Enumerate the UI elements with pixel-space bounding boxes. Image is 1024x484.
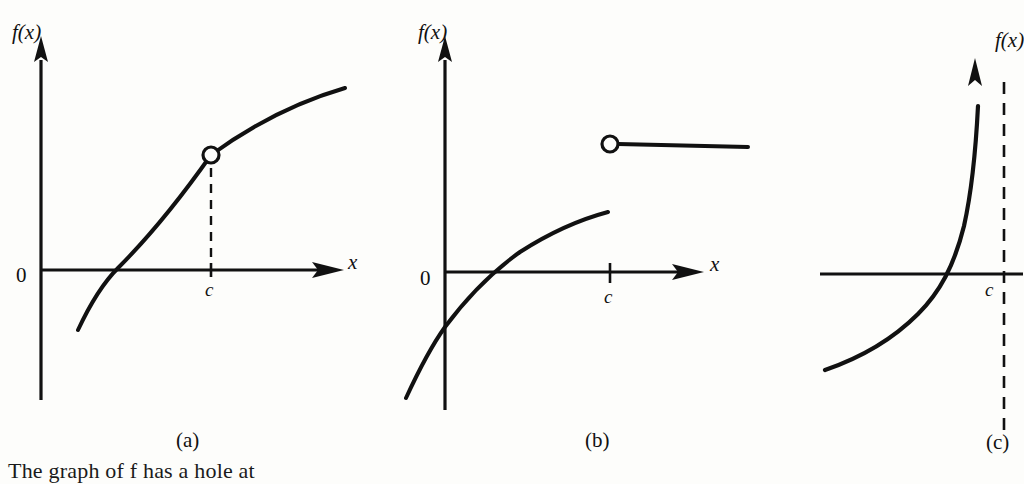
- open-circle-point: [203, 147, 219, 163]
- panel-a-graph: [0, 0, 370, 475]
- origin-label: 0: [420, 268, 431, 289]
- panel-caption-a: (a): [176, 430, 199, 451]
- x-axis-label: x: [348, 252, 357, 273]
- figure-note-text: The graph of f has a hole at: [8, 458, 255, 484]
- tick-label-c: c: [985, 280, 993, 299]
- panel-c: f(x) c (c): [750, 0, 1023, 475]
- x-axis-label: x: [710, 254, 719, 275]
- tick-label-c: c: [604, 287, 612, 306]
- panel-b-graph: [370, 0, 750, 475]
- y-axis-arrowhead: [968, 58, 982, 86]
- open-circle-point: [602, 136, 618, 152]
- origin-label: 0: [16, 265, 27, 286]
- y-axis-label: f(x): [995, 30, 1024, 51]
- panel-a: f(x) x 0 c (a): [0, 0, 370, 475]
- function-curve: [825, 106, 978, 370]
- panel-c-graph: [750, 0, 1023, 475]
- tick-label-c: c: [205, 280, 213, 299]
- lower-branch-curve: [406, 212, 608, 398]
- upper-branch-segment: [618, 144, 748, 147]
- panel-b: f(x) x 0 c (b): [370, 0, 750, 475]
- panel-caption-b: (b): [585, 430, 610, 451]
- y-axis-label: f(x): [418, 22, 447, 43]
- panel-caption-c: (c): [986, 432, 1009, 453]
- y-axis-label: f(x): [12, 22, 41, 43]
